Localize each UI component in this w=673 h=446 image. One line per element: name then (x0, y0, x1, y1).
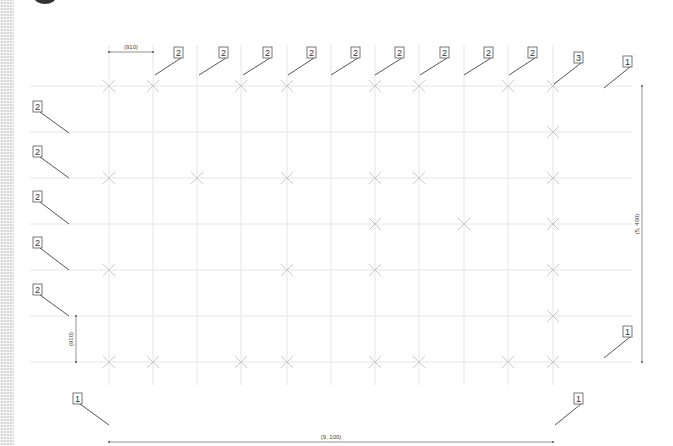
tag-number: 2 (176, 48, 181, 58)
leader-line (40, 112, 69, 133)
leader-line (80, 404, 109, 425)
leader-line (555, 404, 581, 425)
callout-tag: 2 (33, 284, 69, 316)
dimension-top-endpoint (152, 51, 154, 53)
callout-tag: 2 (199, 47, 228, 75)
tag-number: 2 (353, 48, 358, 58)
dimension-bottom-label: (9, 100) (321, 434, 342, 440)
dimension-top-label: (910) (124, 44, 138, 50)
tag-number: 2 (397, 48, 402, 58)
callout-tag: 2 (33, 101, 69, 133)
callout-tag: 1 (604, 326, 632, 358)
callout-tag: 2 (33, 146, 69, 178)
tag-number: 2 (530, 48, 535, 58)
leader-line (199, 58, 226, 75)
tag-number: 1 (75, 394, 80, 404)
tag-number: 2 (35, 102, 40, 112)
tag-number: 2 (486, 48, 491, 58)
leader-line (155, 58, 181, 75)
callout-tag: 2 (375, 47, 404, 75)
dimension-lines: (910) (5, 460) (910) (9, 100) (68, 44, 643, 443)
leader-line (331, 58, 358, 75)
tag-number: 2 (35, 192, 40, 202)
callout-tag: 1 (604, 56, 632, 88)
tag-number: 2 (309, 48, 314, 58)
callout-tag: 2 (331, 47, 360, 75)
callout-tag: 3 (554, 52, 583, 84)
callout-tag: 2 (33, 191, 69, 224)
leader-line (604, 67, 630, 88)
callout-tags: 2222222223122222111 (33, 47, 632, 425)
tag-number: 1 (576, 394, 581, 404)
callout-tag: 2 (509, 47, 537, 75)
tag-number: 2 (35, 285, 40, 295)
callout-tag: 2 (464, 47, 493, 75)
callout-tag: 2 (288, 47, 316, 75)
dimension-right-label: (5, 460) (634, 214, 640, 235)
callout-tag: 2 (155, 47, 183, 75)
callout-tag: 1 (73, 393, 109, 425)
callout-tag: 2 (420, 47, 449, 75)
floor-grid-diagram: (910) (5, 460) (910) (9, 100) 2222222223… (0, 0, 673, 446)
leader-line (243, 58, 270, 75)
tag-number: 2 (265, 48, 270, 58)
tag-number: 2 (221, 48, 226, 58)
tag-number: 2 (35, 147, 40, 157)
dimension-left-endpoint (75, 361, 77, 363)
dimension-top-endpoint (108, 51, 110, 53)
tag-number: 3 (576, 53, 581, 63)
dimension-left-endpoint (75, 315, 77, 317)
tag-number: 1 (625, 57, 630, 67)
callout-tag: 1 (555, 393, 583, 425)
leader-line (375, 58, 402, 75)
dimension-bottom-endpoint (108, 441, 110, 443)
leader-line (40, 248, 69, 270)
leader-line (464, 58, 491, 75)
leader-line (604, 337, 630, 358)
tag-number: 2 (35, 238, 40, 248)
tag-number: 2 (442, 48, 447, 58)
tag-number: 1 (625, 327, 630, 337)
dimension-bottom-endpoint (552, 441, 554, 443)
leader-line (40, 157, 69, 178)
leader-line (40, 295, 69, 316)
leader-line (288, 58, 314, 75)
dimension-right-endpoint (641, 361, 643, 363)
leader-line (509, 58, 535, 75)
dimension-right-endpoint (641, 85, 643, 87)
dimension-left-label: (910) (68, 332, 74, 346)
callout-tag: 2 (243, 47, 272, 75)
leader-line (420, 58, 447, 75)
grid-lines (30, 45, 632, 385)
leader-line (40, 202, 69, 224)
callout-tag: 2 (33, 237, 69, 270)
leader-line (554, 63, 581, 84)
